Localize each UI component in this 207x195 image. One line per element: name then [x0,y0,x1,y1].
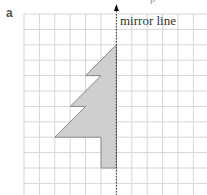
reflection-grid [0,0,207,195]
mirror-line-label: mirror line [120,13,176,29]
arrow-up-icon [114,4,119,11]
